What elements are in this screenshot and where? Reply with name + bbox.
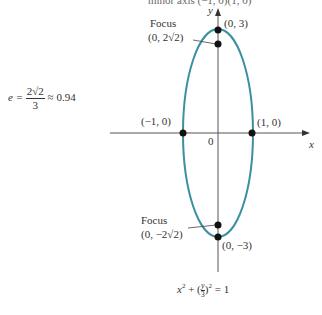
x-axis-label: x xyxy=(309,138,314,150)
y-axis-label: y xyxy=(208,4,213,16)
eccentricity-denominator: 3 xyxy=(26,99,45,111)
left-vertex-point xyxy=(180,130,187,137)
eq-rhs: = 1 xyxy=(212,283,229,295)
top-vertex-label: (0, 3) xyxy=(224,17,248,29)
ellipse-equation: x2 + (y3)2 = 1 xyxy=(177,282,229,299)
eccentricity-formula: e = 2√2 3 ≈ 0.94 xyxy=(8,86,76,111)
top-focus-title: Focus xyxy=(150,17,176,29)
top-focus-point xyxy=(215,41,222,48)
bottom-focus-title: Focus xyxy=(141,214,167,226)
eccentricity-fraction: 2√2 3 xyxy=(26,86,45,111)
origin-label: 0 xyxy=(208,135,214,147)
eq-plus: + ( xyxy=(185,283,200,295)
focus-top-leader xyxy=(193,40,216,44)
right-vertex-label: (1, 0) xyxy=(257,116,281,128)
bottom-vertex-point xyxy=(215,234,222,241)
bottom-focus-point xyxy=(215,222,222,229)
ellipse-diagram xyxy=(0,0,322,315)
eccentricity-numerator: 2√2 xyxy=(26,86,45,99)
top-focus-coords: (0, 2√2) xyxy=(148,31,183,43)
top-vertex-point xyxy=(215,27,222,34)
eccentricity-lhs: e = xyxy=(8,91,23,103)
bottom-focus-coords: (0, −2√2) xyxy=(141,228,183,240)
y-axis-arrow-icon xyxy=(215,8,221,16)
left-vertex-label: (−1, 0) xyxy=(141,115,171,127)
x-axis-arrow-icon xyxy=(302,130,310,136)
eccentricity-approx: ≈ 0.94 xyxy=(48,91,76,103)
right-vertex-point xyxy=(249,130,256,137)
bottom-vertex-label: (0, −3) xyxy=(222,239,252,251)
